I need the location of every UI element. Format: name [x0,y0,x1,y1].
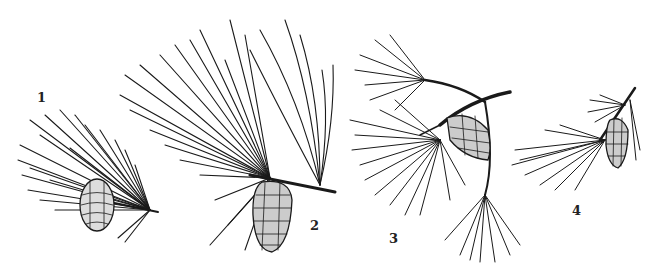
specimen-3-label: 3 [389,231,398,246]
pine-branches-drawing [0,0,662,279]
specimen-2-branch [120,20,335,252]
specimen-4-branch [512,88,640,190]
pine-illustration-plate: 1 2 3 4 [0,0,662,279]
specimen-3-branch [350,35,520,262]
specimen-1-label: 1 [37,90,46,105]
specimen-2-label: 2 [310,218,319,233]
specimen-1-branch [18,110,158,242]
specimen-4-label: 4 [572,203,581,218]
